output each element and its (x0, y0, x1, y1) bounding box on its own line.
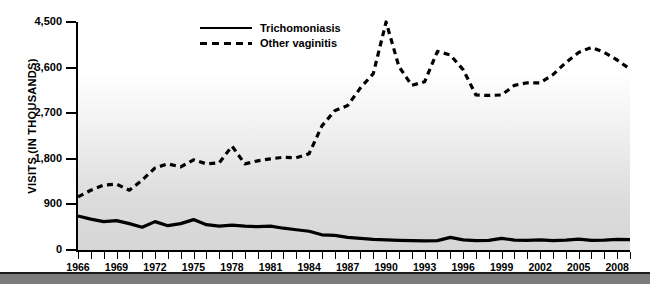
series-line-trichomoniasis (78, 216, 630, 241)
series-line-other-vaginitis (78, 22, 630, 197)
bottom-band (0, 272, 650, 284)
